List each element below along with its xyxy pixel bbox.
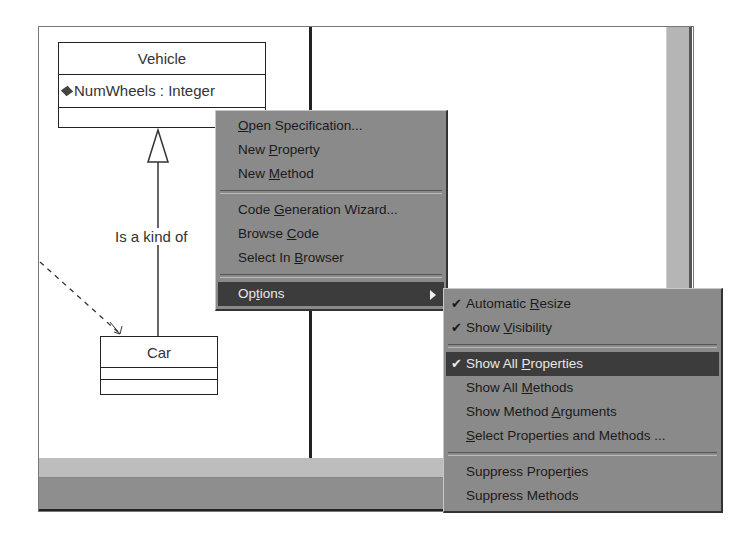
- attribute-text: NumWheels : Integer: [74, 82, 215, 99]
- submenu-item-show-visibility[interactable]: ✔Show Visibility: [446, 316, 719, 340]
- submenu-item-select-properties-and-methods[interactable]: Select Properties and Methods ...: [446, 424, 719, 448]
- submenu-item-show-all-methods[interactable]: Show All Methods: [446, 376, 719, 400]
- attributes-section: [101, 368, 217, 380]
- association-label: Is a kind of: [115, 228, 188, 245]
- submenu-item-show-method-arguments[interactable]: Show Method Arguments: [446, 400, 719, 424]
- check-icon: ✔: [449, 292, 463, 316]
- submenu-item-automatic-resize[interactable]: ✔Automatic Resize: [446, 292, 719, 316]
- menu-item-new-method[interactable]: New Method: [218, 162, 444, 186]
- class-name: Vehicle: [59, 43, 265, 75]
- class-attribute[interactable]: NumWheels : Integer: [59, 75, 265, 108]
- check-icon: ✔: [449, 352, 463, 376]
- submenu-item-suppress-methods[interactable]: Suppress Methods: [446, 484, 719, 508]
- attribute-icon: [61, 86, 73, 96]
- menu-item-select-in-browser[interactable]: Select In Browser: [218, 246, 444, 270]
- menu-item-code-generation-wizard[interactable]: Code Generation Wizard...: [218, 198, 444, 222]
- submenu-item-suppress-properties[interactable]: Suppress Properties: [446, 460, 719, 484]
- menu-separator: [448, 344, 717, 348]
- submenu-arrow-icon: [430, 290, 436, 300]
- uml-class-car[interactable]: Car: [100, 336, 218, 395]
- menu-item-options[interactable]: Options: [218, 282, 444, 306]
- menu-item-open-specification[interactable]: Open Specification...: [218, 114, 444, 138]
- dependency-line[interactable]: [40, 262, 122, 334]
- menu-item-new-property[interactable]: New Property: [218, 138, 444, 162]
- menu-separator: [220, 190, 442, 194]
- submenu-item-show-all-properties[interactable]: ✔Show All Properties: [446, 352, 719, 376]
- menu-item-browse-code[interactable]: Browse Code: [218, 222, 444, 246]
- class-name: Car: [101, 337, 217, 368]
- context-menu: Open Specification... New Property New M…: [215, 110, 448, 311]
- check-icon: ✔: [449, 316, 463, 340]
- menu-separator: [448, 452, 717, 456]
- menu-separator: [220, 274, 442, 278]
- options-submenu: ✔Automatic Resize ✔Show Visibility ✔Show…: [443, 288, 723, 513]
